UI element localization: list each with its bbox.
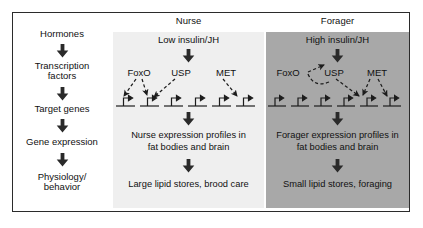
- forager-expression-text: Forager expression profiles in fat bodie…: [266, 130, 409, 154]
- nurse-outcome-text: Large lipid stores, brood care: [113, 179, 264, 189]
- figure-frame: Hormones Transcription factors Target ge…: [12, 12, 410, 212]
- panel-forager: High insulin/JH FoxO USP MET: [266, 32, 409, 208]
- forager-tf-foxo: FoxO: [270, 67, 306, 78]
- down-block-arrow: [331, 112, 344, 126]
- panel-title-nurse: Nurse: [113, 15, 264, 26]
- panel-title-forager: Forager: [266, 15, 409, 26]
- down-block-arrow: [56, 119, 69, 133]
- down-block-arrow: [56, 153, 69, 167]
- pathway-step-transcription-factors: Transcription factors: [13, 61, 111, 82]
- nurse-tf-foxo: FoxO: [121, 67, 157, 78]
- down-block-arrow: [56, 87, 69, 101]
- gene-regulation-pathway: Hormones Transcription factors Target ge…: [13, 13, 111, 210]
- down-block-arrow: [56, 44, 69, 58]
- pathway-step-gene-expression: Gene expression: [13, 137, 111, 147]
- down-block-arrow: [182, 112, 195, 126]
- nurse-signal-label: Low insulin/JH: [113, 35, 264, 45]
- pathway-step-hormones: Hormones: [13, 29, 111, 39]
- down-block-arrow: [331, 159, 344, 173]
- pathway-step-target-genes: Target genes: [13, 104, 111, 114]
- panel-nurse: Low insulin/JH FoxO USP MET: [113, 32, 264, 208]
- nurse-tf-usp: USP: [165, 67, 197, 78]
- forager-tf-usp: USP: [318, 67, 350, 78]
- forager-outcome-text: Small lipid stores, foraging: [266, 179, 409, 189]
- down-block-arrow: [182, 159, 195, 173]
- nurse-expression-text: Nurse expression profiles in fat bodies …: [113, 130, 264, 154]
- down-block-arrow: [182, 49, 195, 63]
- nurse-tf-met: MET: [209, 67, 243, 78]
- forager-signal-label: High insulin/JH: [266, 35, 409, 45]
- pathway-step-physiology-behavior: Physiology/ behavior: [13, 172, 111, 193]
- down-block-arrow: [331, 49, 344, 63]
- forager-tf-met: MET: [360, 67, 394, 78]
